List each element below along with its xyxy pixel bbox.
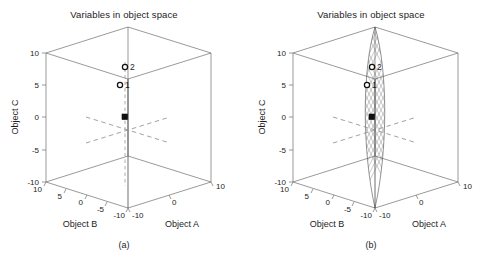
data-point-2	[122, 64, 127, 69]
tick-b-m5: -5	[97, 205, 105, 214]
axis-label-object-a: Object A	[412, 219, 446, 229]
tick-a-0: 0	[419, 198, 424, 207]
axis-b-ticks-b: 10 5 0 -5 -10 Object B	[280, 182, 375, 229]
axes-box-b	[293, 27, 458, 208]
tick-a-m10: -10	[379, 211, 391, 220]
axis-a-ticks-a: -10 0 10 Object A	[128, 182, 225, 229]
panel-b: Variables in object space	[247, 0, 495, 266]
panel-a: Variables in object space	[0, 0, 248, 266]
tick-a-0: 0	[172, 198, 177, 207]
axis-c-ticks-a: 10 5 0 -5 -10	[27, 49, 46, 187]
tick-c-0: 0	[282, 113, 287, 122]
data-point-2	[369, 64, 374, 69]
tick-b-m5: -5	[344, 205, 352, 214]
axis-label-object-b: Object B	[63, 219, 98, 229]
panel-caption-b: (b)	[247, 240, 495, 250]
tick-c-5: 5	[282, 81, 287, 90]
tick-c-10: 10	[30, 49, 39, 58]
tick-b-10: 10	[33, 185, 42, 194]
data-markers-a: 2 1	[117, 62, 135, 120]
plot-canvas-a: 10 5 0 -5 -10 10 5 0 -5 -10	[0, 0, 248, 266]
axis-a-ticks-b: -10 0 10 Object A	[375, 182, 472, 229]
tick-c-m5: -5	[32, 146, 40, 155]
axis-label-object-c: Object C	[10, 99, 20, 135]
axis-label-object-b: Object B	[310, 219, 345, 229]
data-point-1	[364, 82, 369, 87]
tick-b-5: 5	[58, 192, 63, 201]
tick-b-5: 5	[305, 192, 310, 201]
figure-variables-in-object-space: Variables in object space	[0, 0, 495, 266]
tick-b-10: 10	[280, 185, 289, 194]
tick-c-5: 5	[35, 81, 40, 90]
tick-c-0: 0	[35, 113, 40, 122]
tick-a-m10: -10	[132, 211, 144, 220]
axes-box-a	[46, 27, 211, 208]
plot-canvas-b: 10 5 0 -5 -10 10 5 0 -5 -10	[247, 0, 495, 266]
tick-b-m10: -10	[113, 211, 125, 220]
data-point-2-label: 2	[377, 62, 382, 72]
tick-a-10: 10	[216, 182, 225, 191]
origin-marker	[369, 114, 375, 120]
panel-caption-a: (a)	[0, 240, 248, 250]
axis-label-object-c: Object C	[257, 99, 267, 135]
data-point-1-label: 1	[125, 80, 130, 90]
axis-label-object-a: Object A	[165, 219, 199, 229]
tick-b-0: 0	[79, 198, 84, 207]
tick-c-m5: -5	[279, 146, 287, 155]
data-point-2-label: 2	[130, 62, 135, 72]
axis-c-ticks-b: 10 5 0 -5 -10	[274, 49, 293, 187]
tick-b-m10: -10	[360, 211, 372, 220]
origin-marker	[122, 114, 128, 120]
axis-b-ticks-a: 10 5 0 -5 -10 Object B	[33, 182, 128, 229]
data-point-1-label: 1	[372, 80, 377, 90]
data-point-1	[117, 82, 122, 87]
tick-a-10: 10	[463, 182, 472, 191]
tick-c-10: 10	[277, 49, 286, 58]
tick-b-0: 0	[326, 198, 331, 207]
